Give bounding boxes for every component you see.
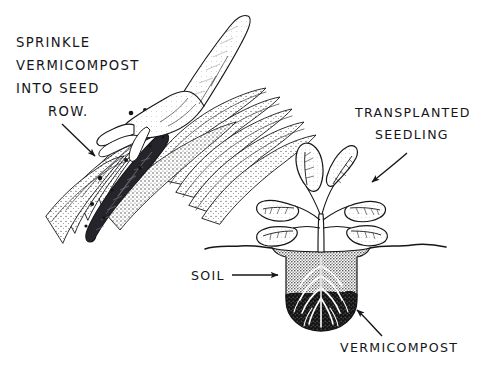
illustration-canvas: SPRINKLE VERMICOMPOST INTO SEED ROW.	[0, 0, 477, 367]
seedling-label-line-2: SEEDLING	[375, 127, 449, 142]
vermicompost-label-text: VERMICOMPOST	[340, 340, 458, 355]
instruction-line-1: SPRINKLE	[16, 35, 90, 50]
seedling-label-line-1: TRANSPLANTED	[354, 105, 471, 120]
soil-label: SOIL	[191, 268, 225, 283]
instruction-line-3: INTO SEED	[16, 81, 100, 96]
illustration-svg: SPRINKLE VERMICOMPOST INTO SEED ROW.	[0, 0, 477, 367]
instruction-line-4: ROW.	[48, 104, 89, 119]
instruction-line-2: VERMICOMPOST	[16, 58, 140, 73]
soil-label-text: SOIL	[191, 268, 225, 283]
vermicompost-label: VERMICOMPOST	[340, 340, 458, 355]
